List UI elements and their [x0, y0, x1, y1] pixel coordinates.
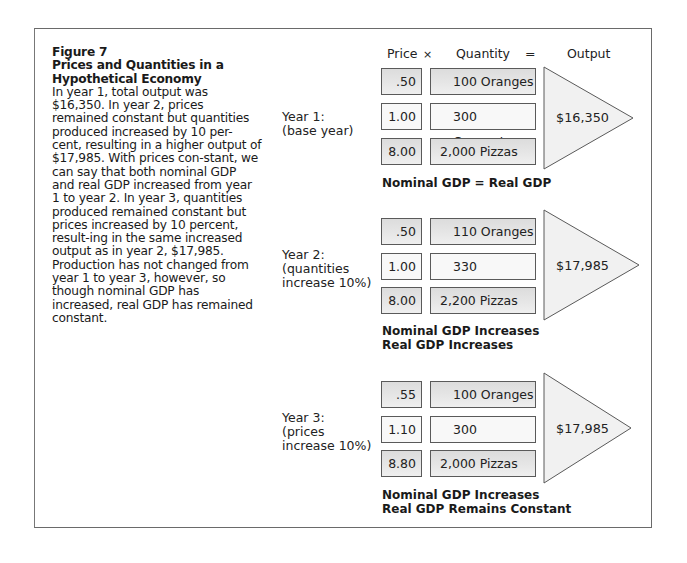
year-label-line: Year 2: [282, 248, 371, 262]
header-quantity: Quantity [456, 46, 510, 61]
output-value: $17,985 [556, 258, 609, 273]
figure-caption: Figure 7 Prices and Quantities in a Hypo… [52, 46, 262, 325]
gdp-note-line: Real GDP Remains Constant [382, 503, 571, 517]
quantity-cell: 110 Oranges [430, 218, 536, 245]
price-cell: .50 [381, 218, 422, 245]
quantity-cell: 300 Coconuts [430, 103, 536, 130]
price-cell: 1.00 [381, 253, 422, 280]
year-label-line: (prices [282, 425, 371, 439]
figure-title: Prices and Quantities in a Hypothetical … [52, 59, 262, 86]
year-label-line: increase 10%) [282, 439, 371, 453]
price-cell: 8.00 [381, 138, 422, 165]
quantity-cell: 2,200 Pizzas [430, 287, 536, 314]
gdp-note-line: Nominal GDP Increases [382, 489, 571, 503]
gdp-note: Nominal GDP Increases Real GDP Remains C… [382, 489, 571, 516]
gdp-note: Nominal GDP Increases Real GDP Increases [382, 325, 539, 352]
output-value: $17,985 [556, 421, 609, 436]
header-output: Output [567, 46, 610, 61]
gdp-note: Nominal GDP = Real GDP [382, 177, 551, 191]
year-label-line: (base year) [282, 124, 353, 138]
gdp-note-line: Nominal GDP Increases [382, 325, 539, 339]
year-2-label: Year 2: (quantities increase 10%) [282, 248, 371, 290]
price-cell: 1.10 [381, 416, 422, 443]
year-3-label: Year 3: (prices increase 10%) [282, 411, 371, 453]
price-cell: 8.00 [381, 287, 422, 314]
header-price: Price [387, 46, 418, 61]
gdp-note-line: Nominal GDP = Real GDP [382, 177, 551, 191]
quantity-cell: 100 Oranges [430, 381, 536, 408]
year-label-line: Year 3: [282, 411, 371, 425]
price-cell: 1.00 [381, 103, 422, 130]
price-cell: 8.80 [381, 450, 422, 477]
price-cell: .55 [381, 381, 422, 408]
year-label-line: Year 1: [282, 110, 353, 124]
output-value: $16,350 [556, 110, 609, 125]
figure-description: In year 1, total output was $16,350. In … [52, 86, 262, 325]
year-1-label: Year 1: (base year) [282, 110, 353, 138]
year-label-line: (quantities [282, 262, 371, 276]
figure-number: Figure 7 [52, 46, 262, 59]
quantity-cell: 300 Coconuts [430, 416, 536, 443]
quantity-cell: 330 Coconuts [430, 253, 536, 280]
price-cell: .50 [381, 68, 422, 95]
quantity-cell: 100 Oranges [430, 68, 536, 95]
quantity-cell: 2,000 Pizzas [430, 138, 536, 165]
header-equals: = [525, 46, 535, 61]
year-label-line: increase 10%) [282, 276, 371, 290]
header-times: × [423, 48, 432, 61]
gdp-note-line: Real GDP Increases [382, 339, 539, 353]
quantity-cell: 2,000 Pizzas [430, 450, 536, 477]
